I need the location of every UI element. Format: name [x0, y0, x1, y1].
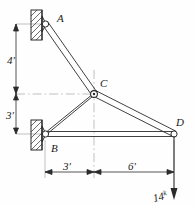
load-arrow-at-d	[171, 136, 178, 200]
centerlines-group	[16, 24, 174, 178]
dim-arrow-6ft-left	[94, 170, 101, 175]
dim-arrow-6ft-right	[167, 170, 174, 175]
member-ac	[43, 22, 97, 96]
dim-arrow-4ft-bottom	[14, 87, 19, 94]
dim-arrow-3ft-top	[14, 94, 19, 100]
dimension-label-6ft: 6'	[128, 160, 137, 172]
dimension-label-3ft-vertical: 3'	[5, 109, 15, 121]
truss-diagram-svg: A B C D 4' 3' 3' 6' 14k	[0, 0, 195, 206]
dimension-vertical-3ft	[14, 94, 19, 134]
joint-label-a: A	[56, 12, 64, 24]
dim-arrow-3ft-bottom	[14, 128, 19, 134]
load-label: 14k	[152, 189, 169, 204]
dim-arrow-4ft-top	[14, 24, 19, 31]
wall-hatching-a	[31, 10, 42, 40]
dim-arrow-3ft-h-left	[45, 170, 52, 175]
load-label-unit: k	[162, 189, 168, 198]
member-bc	[44, 92, 96, 137]
joint-pin-b	[42, 131, 48, 137]
member-cd	[93, 91, 176, 137]
member-bd	[46, 132, 174, 137]
dimension-label-3ft-horizontal: 3'	[62, 160, 72, 172]
truss-members-group	[43, 22, 176, 137]
wall-hatching-b	[31, 120, 42, 150]
joint-pin-c-center	[93, 93, 95, 95]
joint-pin-a	[42, 21, 48, 27]
dimension-label-4ft: 4'	[7, 54, 16, 66]
truss-diagram-figure: A B C D 4' 3' 3' 6' 14k	[0, 0, 195, 206]
joint-pins-group	[42, 21, 177, 137]
joint-label-c: C	[100, 77, 108, 89]
joint-label-d: D	[175, 116, 184, 128]
joint-label-b: B	[51, 142, 58, 154]
load-arrow-head	[171, 188, 178, 200]
